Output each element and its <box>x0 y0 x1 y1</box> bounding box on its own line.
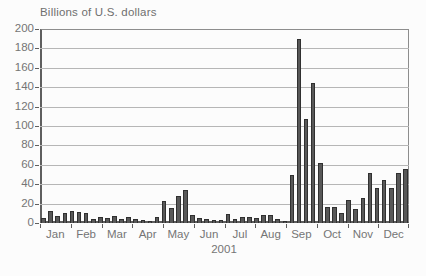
y-axis-tick-label: 80 <box>2 138 34 150</box>
bar <box>268 215 273 223</box>
bar <box>396 173 401 223</box>
y-axis-tick-label: 40 <box>2 177 34 189</box>
bar <box>219 220 224 223</box>
y-axis-tick-label: 200 <box>2 22 34 34</box>
month-label: Jul <box>224 228 256 240</box>
month-label: Jun <box>193 228 225 240</box>
y-axis-tick-label: 140 <box>2 80 34 92</box>
bar <box>240 217 245 223</box>
y-gridline <box>40 68 409 69</box>
bar <box>70 211 75 223</box>
bar <box>197 218 202 223</box>
bar <box>261 215 266 223</box>
bar <box>283 221 288 223</box>
month-label: Aug <box>255 228 287 240</box>
y-gridline <box>40 48 409 49</box>
bar <box>368 173 373 223</box>
bar <box>183 190 188 223</box>
bar <box>98 217 103 223</box>
bar <box>91 219 96 223</box>
bar <box>290 175 295 224</box>
bar <box>84 213 89 223</box>
bar <box>141 220 146 223</box>
bar <box>63 213 68 223</box>
month-label: Oct <box>316 228 348 240</box>
month-label: Jan <box>39 228 71 240</box>
month-label: May <box>162 228 194 240</box>
bar-chart: Billions of U.S. dollars 020406080100120… <box>0 0 426 276</box>
y-axis-tick <box>35 204 39 205</box>
y-axis-tick-label: 180 <box>2 41 34 53</box>
chart-title: Billions of U.S. dollars <box>40 6 157 18</box>
y-axis-tick <box>35 165 39 166</box>
y-gridline <box>40 107 409 108</box>
y-gridline <box>40 165 409 166</box>
bar <box>126 217 131 223</box>
bar <box>55 216 60 223</box>
bar <box>155 217 160 223</box>
y-gridline <box>40 145 409 146</box>
bar <box>332 207 337 223</box>
month-label: Apr <box>132 228 164 240</box>
bar <box>112 216 117 223</box>
bar <box>254 218 259 223</box>
bar <box>382 180 387 223</box>
bar <box>311 83 316 223</box>
bar <box>353 209 358 223</box>
bar <box>346 200 351 223</box>
bar <box>148 221 153 223</box>
bar <box>133 219 138 223</box>
y-axis-tick <box>35 87 39 88</box>
y-axis-tick <box>35 48 39 49</box>
y-axis-tick <box>35 68 39 69</box>
bar <box>339 213 344 223</box>
bar <box>361 198 366 223</box>
y-gridline <box>40 126 409 127</box>
bar <box>41 218 46 223</box>
month-label: Feb <box>70 228 102 240</box>
month-label: Mar <box>101 228 133 240</box>
bar <box>48 211 53 223</box>
bar <box>119 219 124 223</box>
bar <box>389 188 394 223</box>
y-axis-tick <box>35 107 39 108</box>
y-axis-tick <box>35 29 39 30</box>
y-axis-tick-label: 0 <box>2 216 34 228</box>
y-axis-tick <box>35 184 39 185</box>
bar <box>190 215 195 223</box>
bar <box>275 219 280 223</box>
bar <box>403 169 408 223</box>
y-gridline <box>40 87 409 88</box>
bar <box>318 163 323 223</box>
bar <box>212 220 217 223</box>
bar <box>105 218 110 223</box>
bar <box>204 219 209 223</box>
y-axis-tick-label: 100 <box>2 119 34 131</box>
y-axis-tick <box>35 223 39 224</box>
month-label: Sep <box>285 228 317 240</box>
y-axis-tick-label: 20 <box>2 197 34 209</box>
y-gridline <box>40 204 409 205</box>
month-label: Nov <box>347 228 379 240</box>
month-label: Dec <box>378 228 410 240</box>
bar <box>226 214 231 223</box>
bar <box>325 207 330 223</box>
y-axis-tick-label: 60 <box>2 158 34 170</box>
bar <box>233 219 238 223</box>
bar <box>77 212 82 223</box>
y-axis-tick <box>35 145 39 146</box>
y-axis-tick-label: 120 <box>2 100 34 112</box>
y-axis-tick-label: 160 <box>2 61 34 73</box>
y-axis-tick <box>35 126 39 127</box>
bar <box>247 217 252 223</box>
y-gridline <box>40 184 409 185</box>
x-axis-tick <box>408 224 409 228</box>
bar <box>176 196 181 223</box>
bar <box>169 208 174 223</box>
bar <box>162 201 167 223</box>
year-label: 2001 <box>194 243 254 255</box>
bar <box>304 119 309 223</box>
bar <box>375 188 380 223</box>
bar <box>297 39 302 223</box>
